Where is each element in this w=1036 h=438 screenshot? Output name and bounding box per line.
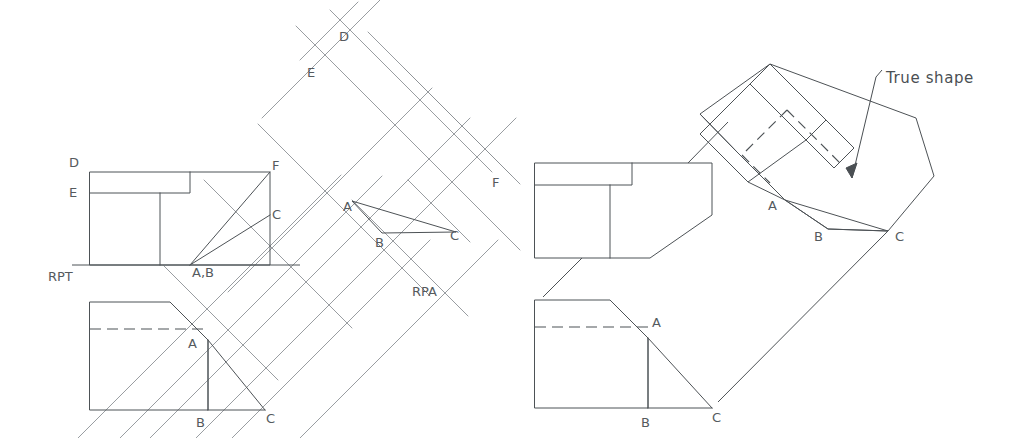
projection-line-a5 <box>232 240 430 438</box>
label-aux-b: B <box>375 235 384 250</box>
projection-line-b9 <box>164 266 278 380</box>
label-top-c: C <box>266 411 275 426</box>
rotated-triangle-path <box>785 200 888 231</box>
projection-line-b8 <box>352 200 468 316</box>
projection-line-a4 <box>196 118 516 438</box>
label-front-ab: A,B <box>192 265 214 280</box>
rotated-body-outline <box>700 64 934 231</box>
projection-line-a7 <box>228 88 432 292</box>
leader-line <box>852 70 882 178</box>
technical-drawing-svg: RPT RPA D E F C A,B A B C D E F A B C A … <box>0 0 1036 438</box>
projection-line-b7 <box>436 100 520 184</box>
projection-line-a1 <box>78 175 341 438</box>
rotated-step-box-2 <box>806 120 854 168</box>
left-top-view <box>90 302 265 410</box>
label-true-shape-note: True shape <box>885 69 974 87</box>
label-aux-c: C <box>450 228 459 243</box>
drawing-canvas: RPT RPA D E F C A,B A B C D E F A B C A … <box>0 0 1036 438</box>
right-top-view <box>535 300 712 408</box>
label-aux-f: F <box>492 175 499 190</box>
rotated-edge-3 <box>748 140 806 182</box>
label-rotated-b: B <box>814 229 823 244</box>
label-aux-e: E <box>307 65 315 80</box>
label-aux-d: D <box>339 29 349 44</box>
label-aux-a: A <box>343 199 352 214</box>
projection-line-b6 <box>204 180 352 328</box>
auxiliary-triangle <box>352 201 456 233</box>
label-right-top-c: C <box>712 410 721 425</box>
right-top-diag-ac <box>648 338 712 408</box>
label-rpt: RPT <box>48 269 73 284</box>
projection-line-b1 <box>296 26 520 250</box>
rotated-left-face <box>700 114 785 200</box>
label-front-e: E <box>69 185 77 200</box>
connector-front-to-top <box>543 258 582 297</box>
label-rpa: RPA <box>412 284 437 299</box>
true-shape-leader <box>846 70 882 178</box>
label-top-b: B <box>196 415 205 430</box>
projection-line-a6 <box>300 240 498 438</box>
right-front-outline <box>535 163 712 258</box>
right-front-view <box>535 163 712 258</box>
rotated-hidden-1 <box>787 110 840 163</box>
leader-arrowhead <box>846 163 857 178</box>
label-front-f: F <box>272 158 279 173</box>
rotated-edge-2 <box>700 134 748 182</box>
top-view-outline <box>90 302 208 410</box>
top-view-diag-ac <box>208 340 265 410</box>
rotated-edge-4 <box>748 182 785 200</box>
label-front-c: C <box>272 207 281 222</box>
projection-line-grid <box>78 0 520 438</box>
right-front-notch <box>535 163 632 185</box>
label-rotated-a: A <box>768 198 777 213</box>
rotated-hidden-2 <box>742 110 787 155</box>
label-right-top-a: A <box>652 315 661 330</box>
right-top-outline <box>535 300 648 408</box>
label-top-a: A <box>188 336 197 351</box>
label-front-d: D <box>69 155 79 170</box>
projection-line-a2 <box>120 176 382 438</box>
label-right-top-b: B <box>641 415 650 430</box>
projection-line-b2 <box>330 10 492 172</box>
front-view-notch <box>90 172 190 193</box>
front-view-edge-ab-to-f <box>190 172 270 265</box>
label-rotated-c: C <box>895 229 904 244</box>
aux-triangle-path <box>352 201 456 233</box>
rotated-true-shape-triangle <box>785 200 888 231</box>
rotated-auxiliary-view <box>700 64 934 231</box>
rotated-step-box <box>750 64 826 140</box>
connector-top-to-rotated <box>718 231 888 402</box>
